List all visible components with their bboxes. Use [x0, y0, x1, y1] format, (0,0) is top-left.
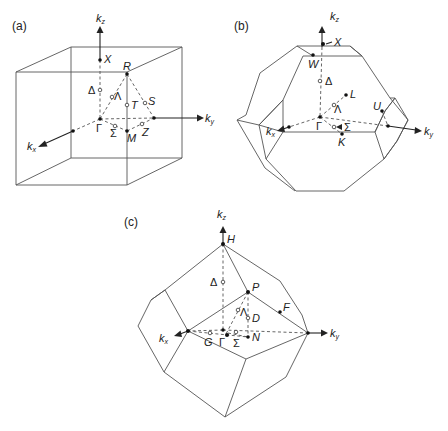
kz-arrow-icon — [319, 26, 326, 33]
point-U: U — [373, 100, 381, 112]
point-L: L — [350, 88, 356, 100]
panel-a-label: (a) — [12, 19, 27, 33]
kx-label: kx — [159, 332, 169, 345]
point-Delta: Δ — [88, 84, 96, 96]
ky-arrow-icon — [197, 115, 204, 122]
point-X: X — [103, 53, 112, 65]
kx-label: kx — [266, 125, 276, 138]
point-N: N — [252, 331, 260, 343]
ky-arrow-icon — [415, 127, 423, 134]
point-X: X — [333, 36, 342, 48]
axes — [277, 26, 422, 134]
point-Lambda: Λ — [114, 90, 122, 102]
ky-label: ky — [424, 125, 434, 139]
kz-arrow-icon — [220, 226, 227, 233]
point-S: S — [148, 95, 156, 107]
axes — [38, 26, 204, 147]
point-Gamma: Γ — [96, 122, 102, 134]
point-Delta: Δ — [210, 276, 218, 288]
point-D: D — [252, 312, 260, 324]
point-T: T — [131, 99, 139, 111]
point-P: P — [252, 281, 260, 293]
cube-edges — [16, 47, 182, 185]
symmetry-lines — [289, 47, 388, 134]
ky-label: ky — [330, 327, 340, 341]
ky-arrow-icon — [321, 330, 328, 337]
point-Gamma: Γ — [316, 120, 322, 132]
point-Z: Z — [141, 126, 150, 138]
point-Lambda: Λ — [334, 103, 342, 115]
point-Gamma: Γ — [219, 336, 225, 348]
panel-c: (c) — [124, 208, 340, 417]
point-F: F — [283, 301, 291, 313]
point-R: R — [123, 60, 131, 72]
kz-label: kz — [330, 10, 340, 23]
point-Sigma: Σ — [344, 121, 351, 133]
point-W: W — [308, 58, 320, 70]
kz-label: kz — [217, 208, 227, 221]
point-M: M — [127, 132, 137, 144]
axes — [174, 226, 328, 337]
kx-arrow-icon — [38, 141, 48, 148]
panel-a: (a) — [12, 12, 215, 185]
point-Sigma: Σ — [110, 127, 117, 139]
point-Delta: Δ — [325, 75, 333, 87]
point-Lambda: Λ — [240, 306, 248, 318]
ky-label: ky — [205, 112, 215, 126]
kx-arrow-icon — [277, 126, 285, 133]
panel-c-label: (c) — [124, 215, 138, 229]
panel-b: (b) — [234, 10, 434, 191]
point-G: G — [204, 336, 213, 348]
point-K: K — [338, 136, 346, 148]
kz-arrow-icon — [97, 26, 104, 33]
kx-arrow-icon — [174, 331, 182, 338]
kz-label: kz — [96, 12, 106, 25]
point-H: H — [227, 233, 235, 245]
panel-b-label: (b) — [234, 19, 249, 33]
kx-label: kx — [27, 140, 37, 153]
point-Sigma: Σ — [233, 337, 240, 349]
brillouin-zones-figure: (a) — [0, 0, 448, 431]
